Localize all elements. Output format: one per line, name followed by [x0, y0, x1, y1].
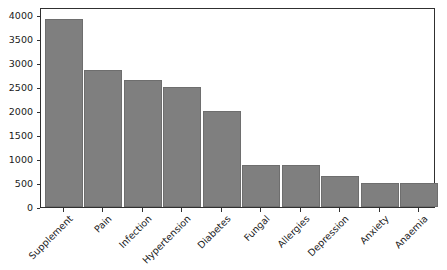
bar-anaemia	[400, 183, 438, 207]
plot-area	[40, 8, 435, 208]
y-tick-label: 1000	[9, 154, 33, 165]
y-tick-mark	[37, 64, 41, 65]
y-tick-mark	[37, 16, 41, 17]
y-tick-mark	[37, 208, 41, 209]
x-tick-label-pain: Pain	[92, 213, 114, 235]
x-tick-label-allergies: Allergies	[275, 213, 312, 250]
x-tick-label-fungal: Fungal	[242, 213, 272, 243]
x-tick-mark	[260, 208, 261, 212]
y-tick-mark	[37, 184, 41, 185]
bar-chart-figure: 05001000150020002500300035004000 Supplem…	[0, 0, 447, 270]
y-tick-label: 3000	[9, 58, 33, 69]
bar-pain	[84, 70, 122, 207]
x-tick-label-infection: Infection	[116, 213, 153, 250]
x-tick-label-diabetes: Diabetes	[195, 213, 233, 251]
bar-supplement	[45, 19, 83, 207]
y-tick-label: 4000	[9, 10, 33, 21]
x-tick-mark	[142, 208, 143, 212]
x-tick-mark	[300, 208, 301, 212]
x-tick-label-depression: Depression	[306, 213, 351, 258]
x-tick-mark	[221, 208, 222, 212]
bar-depression	[321, 176, 359, 207]
y-tick-label: 0	[27, 202, 33, 213]
x-tick-label-anaemia: Anaemia	[393, 213, 430, 250]
x-tick-mark	[418, 208, 419, 212]
y-tick-label: 2000	[9, 106, 33, 117]
x-tick-mark	[379, 208, 380, 212]
y-tick-mark	[37, 136, 41, 137]
y-tick-mark	[37, 160, 41, 161]
y-tick-label: 2500	[9, 82, 33, 93]
y-tick-label: 500	[15, 178, 33, 189]
y-tick-mark	[37, 112, 41, 113]
x-tick-mark	[339, 208, 340, 212]
bar-infection	[124, 80, 162, 207]
x-tick-label-supplement: Supplement	[26, 213, 74, 261]
x-tick-mark	[102, 208, 103, 212]
bar-allergies	[282, 165, 320, 207]
y-tick-mark	[37, 88, 41, 89]
x-tick-label-anxiety: Anxiety	[357, 213, 390, 246]
bars-layer	[41, 9, 434, 207]
x-tick-mark	[63, 208, 64, 212]
bar-fungal	[242, 165, 280, 207]
bar-anxiety	[361, 183, 399, 207]
bar-diabetes	[203, 111, 241, 207]
bar-hypertension	[163, 87, 201, 207]
y-tick-label: 1500	[9, 130, 33, 141]
y-tick-mark	[37, 40, 41, 41]
x-tick-mark	[181, 208, 182, 212]
y-tick-label: 3500	[9, 34, 33, 45]
